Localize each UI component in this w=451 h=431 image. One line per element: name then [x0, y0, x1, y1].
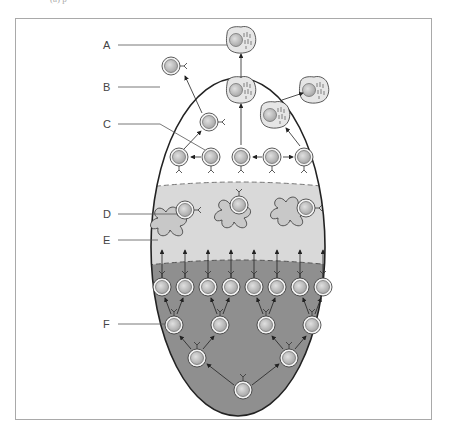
label-e: E [103, 234, 110, 246]
label-b: B [103, 81, 110, 93]
label-d: D [103, 208, 111, 220]
zones [140, 70, 340, 430]
label-f: F [103, 318, 110, 330]
label-c: C [103, 118, 111, 130]
label-a: A [103, 39, 111, 51]
germinal-center-diagram: A B C D E F [0, 0, 451, 431]
